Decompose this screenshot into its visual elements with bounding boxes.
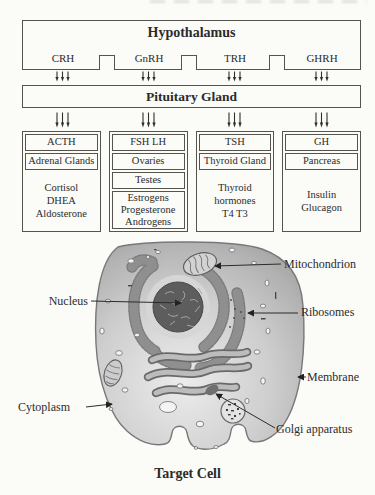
- nucleus-label: Nucleus: [18, 294, 88, 309]
- product-line: hormones: [198, 194, 273, 207]
- triple-down-arrow-icon: [54, 112, 71, 128]
- axis-column-fsh-lh: FSH LH Ovaries Testes Estrogens Progeste…: [109, 131, 188, 232]
- triple-down-arrow-icon: [313, 112, 330, 128]
- nucleus-shape: [153, 282, 203, 332]
- triple-down-arrow-icon: [226, 71, 243, 82]
- page-top-artifact: [150, 0, 367, 3]
- hormone-label-trh: TRH: [224, 52, 246, 64]
- product-line: Aldosterone: [24, 207, 99, 220]
- triple-down-arrow-icon: [313, 71, 330, 82]
- hormone-abbrev: GH: [285, 134, 358, 151]
- product-line: Insulin: [284, 188, 359, 201]
- secreted-hormones: Estrogens Progesterone Androgens: [112, 191, 185, 229]
- triple-down-arrow-icon: [226, 112, 243, 128]
- axis-column-acth: ACTH Adrenal Glands Cortisol DHEA Aldost…: [22, 131, 101, 232]
- product-line: Estrogens: [113, 192, 184, 204]
- golgi-apparatus-label: Golgi apparatus: [276, 422, 352, 437]
- gland-name: Adrenal Glands: [25, 153, 98, 170]
- triple-down-arrow-icon: [140, 112, 157, 128]
- secretory-vesicle-shape: [221, 399, 245, 423]
- product-line: T4 T3: [198, 207, 273, 220]
- scanned-diagram-page: Hypothalamus CRH GnRH TRH GHRH Pituitary…: [0, 0, 375, 495]
- axis-column-gh: GH Pancreas Insulin Glucagon: [282, 131, 361, 232]
- mitochondrion-label: Mitochondrion: [284, 257, 356, 272]
- triple-down-arrow-icon: [140, 71, 157, 82]
- hypothalamus-title: Hypothalamus: [23, 21, 360, 41]
- ribosomes-label: Ribosomes: [301, 305, 354, 320]
- product-line: Cortisol: [24, 181, 99, 194]
- axis-column-tsh: TSH Thyroid Gland Thyroid hormones T4 T3: [196, 131, 275, 232]
- pituitary-title: Pituitary Gland: [146, 89, 237, 104]
- hormone-label-ghrh: GHRH: [306, 52, 337, 64]
- gland-name: Pancreas: [285, 153, 358, 170]
- product-line: DHEA: [24, 194, 99, 207]
- hormone-label-gnrh: GnRH: [135, 52, 164, 64]
- secreted-hormones: Thyroid hormones T4 T3: [198, 171, 273, 230]
- box-notch: [181, 55, 197, 70]
- product-line: Thyroid: [198, 181, 273, 194]
- membrane-label: Membrane: [307, 370, 359, 385]
- pituitary-box: Pituitary Gland: [22, 85, 361, 108]
- secreted-hormones: Cortisol DHEA Aldosterone: [24, 171, 99, 230]
- hormone-abbrev: FSH LH: [112, 134, 185, 151]
- secreted-hormones: Insulin Glucagon: [284, 171, 359, 230]
- target-cell-caption: Target Cell: [0, 466, 375, 482]
- gland-name: Thyroid Gland: [199, 153, 272, 170]
- gland-columns: ACTH Adrenal Glands Cortisol DHEA Aldost…: [22, 131, 361, 232]
- hypothalamus-box: Hypothalamus CRH GnRH TRH GHRH: [22, 20, 361, 70]
- product-line: Glucagon: [284, 201, 359, 214]
- triple-down-arrow-icon: [54, 71, 71, 82]
- box-notch: [99, 55, 115, 70]
- product-line: Androgens: [113, 216, 184, 228]
- box-notch: [269, 55, 285, 70]
- cytoplasm-label: Cytoplasm: [18, 400, 70, 415]
- hormone-abbrev: ACTH: [25, 134, 98, 151]
- hormone-abbrev: TSH: [199, 134, 272, 151]
- gland-name: Testes: [112, 172, 185, 189]
- product-line: Progesterone: [113, 204, 184, 216]
- hormone-label-crh: CRH: [52, 52, 75, 64]
- gland-name: Ovaries: [112, 153, 185, 170]
